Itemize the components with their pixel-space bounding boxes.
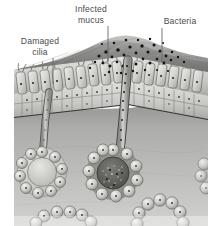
label-bacteria-line1: Bacteria xyxy=(164,16,197,26)
label-infected-mucus-line1: Infected xyxy=(75,4,107,14)
illustration-canvas: Damaged cilia Infected mucus Bacteria xyxy=(0,0,208,226)
label-damaged-cilia-line2: cilia xyxy=(32,47,48,57)
label-bacteria: Bacteria xyxy=(164,16,197,26)
illustration-figure: Damaged cilia Infected mucus Bacteria xyxy=(0,0,208,226)
label-infected-mucus: Infected mucus xyxy=(75,4,107,25)
label-infected-mucus-line2: mucus xyxy=(78,15,104,25)
label-damaged-cilia-line1: Damaged xyxy=(21,36,59,46)
